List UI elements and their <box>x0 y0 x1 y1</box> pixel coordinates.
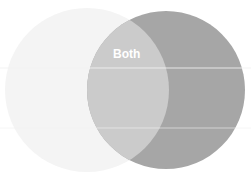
intersection-label: Both <box>113 47 140 61</box>
venn-diagram <box>0 0 251 176</box>
